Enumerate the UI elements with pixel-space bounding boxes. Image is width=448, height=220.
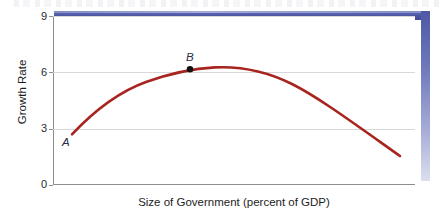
- point-b-marker: [187, 66, 194, 73]
- point-b-label: B: [186, 51, 194, 63]
- point-a-label: A: [62, 136, 70, 148]
- growth-curve-path: [72, 67, 400, 156]
- curve-layer: [0, 0, 448, 220]
- rahn-curve-figure: 9 6 3 0 Growth Rate Size of Government (…: [0, 0, 448, 220]
